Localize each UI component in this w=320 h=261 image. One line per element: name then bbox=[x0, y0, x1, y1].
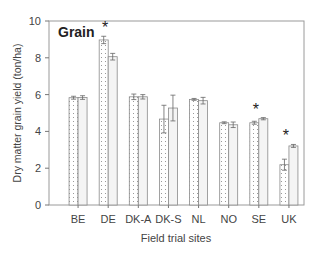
significance-marker: * bbox=[283, 127, 289, 144]
y-tick-label: 8 bbox=[35, 52, 41, 64]
x-tick-label: DK-S bbox=[155, 213, 181, 225]
x-tick-label: SE bbox=[251, 213, 266, 225]
bar bbox=[138, 97, 147, 205]
grain-yield-chart: 0246810BEDEDK-ADK-SNLNOSEUK *** Grain Fi… bbox=[0, 0, 320, 261]
x-tick-label: DE bbox=[101, 213, 116, 225]
x-tick-label: NL bbox=[192, 213, 206, 225]
bar bbox=[168, 108, 177, 205]
x-axis-label: Field trial sites bbox=[141, 232, 212, 244]
y-tick-label: 0 bbox=[35, 199, 41, 211]
y-tick-label: 10 bbox=[29, 15, 41, 27]
x-tick-label: DK-A bbox=[125, 213, 152, 225]
x-tick-label: NO bbox=[220, 213, 237, 225]
bar bbox=[199, 101, 208, 205]
bar bbox=[78, 98, 87, 205]
bar bbox=[250, 123, 259, 205]
bar bbox=[289, 146, 298, 205]
bar bbox=[190, 99, 199, 205]
bar bbox=[259, 119, 268, 205]
bar bbox=[229, 125, 238, 205]
chart-title: Grain bbox=[58, 24, 95, 40]
bar bbox=[99, 40, 108, 205]
y-tick-label: 6 bbox=[35, 89, 41, 101]
bar bbox=[220, 123, 229, 205]
significance-marker: * bbox=[102, 19, 108, 36]
bars: *** bbox=[69, 19, 298, 205]
bar bbox=[69, 98, 78, 205]
significance-marker: * bbox=[253, 101, 259, 118]
bar bbox=[108, 57, 117, 205]
x-tick-label: BE bbox=[71, 213, 86, 225]
x-tick-label: UK bbox=[281, 213, 297, 225]
bar bbox=[129, 97, 138, 205]
bar bbox=[280, 165, 289, 205]
y-tick-label: 2 bbox=[35, 162, 41, 174]
y-axis-label: Dry matter grain yield (ton/ha) bbox=[11, 44, 23, 183]
y-tick-label: 4 bbox=[35, 125, 41, 137]
